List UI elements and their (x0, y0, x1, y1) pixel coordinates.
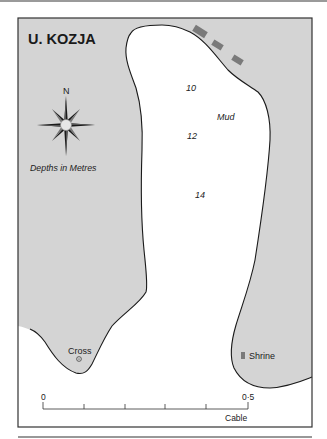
map-title: U. KOZJA (28, 31, 96, 47)
scale-end-label: 0·5 (242, 392, 255, 402)
harbour-chart: U. KOZJA N Depths in Metres 10 12 14 Mu (0, 0, 327, 439)
sounding-10: 10 (186, 83, 196, 93)
scale-start-label: 0 (41, 392, 46, 402)
shrine-label: Shrine (249, 351, 275, 361)
cross-label: Cross (68, 346, 92, 356)
sounding-12: 12 (187, 131, 197, 141)
shrine-icon (241, 352, 245, 359)
scale-unit-label: Cable (225, 413, 247, 423)
depth-units-note: Depths in Metres (30, 163, 97, 173)
north-label: N (63, 86, 70, 96)
seabed-mud-label: Mud (217, 112, 236, 122)
sounding-14: 14 (195, 190, 205, 200)
